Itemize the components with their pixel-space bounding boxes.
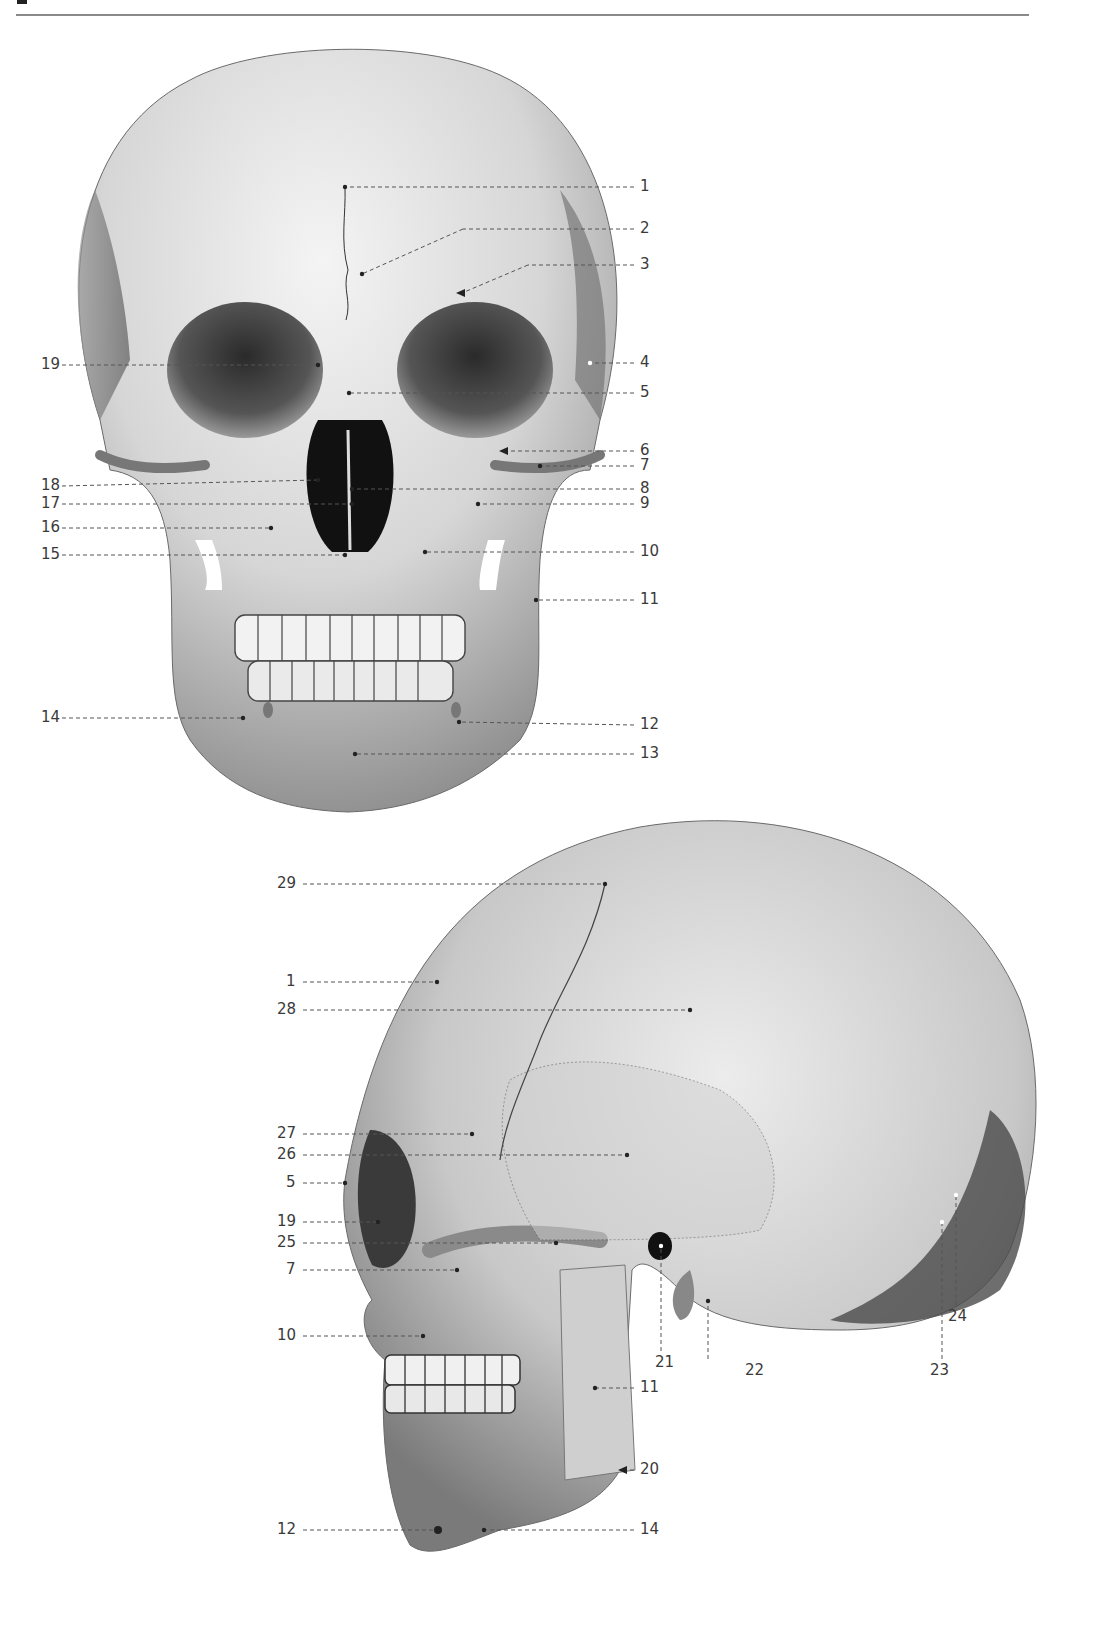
leader-dot: [476, 502, 480, 506]
leader-dot: [423, 550, 427, 554]
leader-dot: [455, 1268, 459, 1272]
lateral-teeth: [385, 1355, 520, 1413]
label-1: 1: [640, 179, 650, 194]
label-11: 11: [640, 1380, 659, 1395]
leader-dot: [659, 1244, 663, 1248]
leader-dot: [706, 1299, 710, 1303]
leader-dot: [269, 526, 273, 530]
skull-figure: 1234567891011121319181716151429128272651…: [0, 0, 1101, 1648]
leader-dot: [688, 1008, 692, 1012]
label-15: 15: [20, 547, 60, 562]
leader-dot: [343, 553, 347, 557]
label-27: 27: [277, 1126, 296, 1141]
label-10: 10: [640, 544, 659, 559]
label-19: 19: [20, 357, 60, 372]
label-12: 12: [640, 717, 659, 732]
label-11: 11: [640, 592, 659, 607]
label-16: 16: [20, 520, 60, 535]
label-28: 28: [277, 1002, 296, 1017]
label-14: 14: [20, 710, 60, 725]
leader-dot: [241, 716, 245, 720]
label-25: 25: [277, 1235, 296, 1250]
leader-dot: [534, 598, 538, 602]
label-7: 7: [286, 1262, 296, 1277]
leader-dot: [376, 1220, 380, 1224]
label-5: 5: [640, 385, 650, 400]
leader-dot: [954, 1193, 958, 1197]
leader-dot: [353, 752, 357, 756]
label-21: 21: [655, 1355, 674, 1370]
leader-dot: [435, 980, 439, 984]
leader-dot: [350, 502, 354, 506]
leader-dot: [347, 391, 351, 395]
label-14: 14: [640, 1522, 659, 1537]
label-2: 2: [640, 221, 650, 236]
label-13: 13: [640, 746, 659, 761]
leader-dot: [482, 1528, 486, 1532]
leader-dot: [625, 1153, 629, 1157]
lateral-skull: [344, 821, 1036, 1552]
leader-dot: [343, 1181, 347, 1185]
upper-teeth: [235, 615, 465, 661]
leader-dot: [343, 185, 347, 189]
label-17: 17: [20, 496, 60, 511]
label-12: 12: [277, 1522, 296, 1537]
leader-dot: [588, 361, 592, 365]
leader-dot: [593, 1386, 597, 1390]
label-23: 23: [930, 1363, 949, 1378]
label-4: 4: [640, 355, 650, 370]
label-26: 26: [277, 1147, 296, 1162]
leader-dot: [457, 720, 461, 724]
leader-dot: [436, 1528, 440, 1532]
leader-dot: [350, 487, 354, 491]
label-19: 19: [277, 1214, 296, 1229]
skull-illustration: [0, 0, 1101, 1648]
leader-dot: [360, 272, 364, 276]
label-5: 5: [286, 1175, 296, 1190]
label-20: 20: [640, 1462, 659, 1477]
label-24: 24: [948, 1309, 967, 1324]
anterior-skull: [78, 49, 617, 812]
label-9: 9: [640, 496, 650, 511]
label-3: 3: [640, 257, 650, 272]
leader-dot: [554, 1241, 558, 1245]
leader-dot: [940, 1220, 944, 1224]
label-22: 22: [745, 1363, 764, 1378]
leader-dot: [316, 363, 320, 367]
label-18: 18: [20, 478, 60, 493]
label-7: 7: [640, 458, 650, 473]
leader-dot: [421, 1334, 425, 1338]
label-10: 10: [277, 1328, 296, 1343]
leader-dot: [538, 464, 542, 468]
leader-dot: [316, 478, 320, 482]
label-29: 29: [277, 876, 296, 891]
lower-teeth: [248, 661, 453, 701]
leader-dot: [603, 882, 607, 886]
leader-dot: [470, 1132, 474, 1136]
label-1: 1: [286, 974, 296, 989]
